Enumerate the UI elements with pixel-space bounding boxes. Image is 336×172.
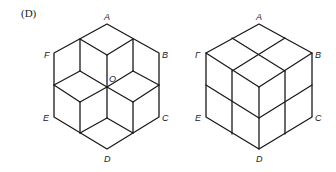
edge — [80, 39, 107, 55]
label-e: E — [43, 113, 50, 123]
left-hexagon-figure: A B C D E F O — [43, 12, 169, 164]
edge — [107, 39, 133, 55]
right-cube-figure: A B C D E Г — [195, 12, 322, 164]
edge — [54, 85, 80, 102]
label-b: B — [315, 50, 321, 60]
edge — [80, 118, 107, 133]
label-d: D — [256, 154, 263, 164]
diagram-canvas: A B C D E F O A B C — [0, 0, 336, 172]
edge — [107, 87, 133, 102]
figure-caption: (D) — [21, 7, 36, 19]
label-b: B — [162, 50, 168, 60]
label-c: C — [315, 113, 322, 123]
edge — [107, 118, 133, 133]
label-e: E — [195, 113, 202, 123]
diagram-stage: (D) — [0, 0, 336, 172]
label-a: A — [103, 12, 110, 22]
label-o: O — [109, 74, 116, 84]
edge — [80, 87, 107, 102]
edge — [54, 71, 80, 85]
label-c: C — [162, 113, 169, 123]
edge — [80, 71, 107, 87]
edge — [133, 71, 159, 85]
label-f: F — [44, 50, 50, 60]
edge — [133, 85, 159, 102]
label-d: D — [104, 154, 111, 164]
label-f: Г — [195, 50, 201, 60]
label-a: A — [255, 12, 262, 22]
